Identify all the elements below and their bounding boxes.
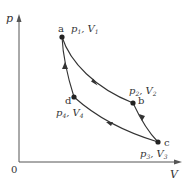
point-a-state: p1, V1 xyxy=(71,23,99,35)
arrow-a-b-icon xyxy=(91,78,99,85)
point-d xyxy=(71,94,76,99)
y-axis-label: p xyxy=(6,12,13,25)
x-axis-label: V xyxy=(170,168,179,181)
x-axis-arrow-icon xyxy=(174,160,182,165)
point-d-label: d xyxy=(65,95,72,106)
y-axis-arrow-icon xyxy=(17,14,22,22)
point-d-state: p4, V4 xyxy=(56,107,84,119)
origin-label: 0 xyxy=(11,164,17,175)
process-c-d xyxy=(74,97,158,142)
arrow-d-a-icon xyxy=(62,62,68,69)
point-b xyxy=(130,100,135,105)
point-c-label: c xyxy=(164,137,170,148)
point-a-label: a xyxy=(58,23,64,34)
process-b-c xyxy=(133,103,158,142)
point-c xyxy=(155,139,160,144)
arrow-c-d-icon xyxy=(106,122,113,126)
point-a xyxy=(59,34,64,39)
point-c-state: p3, V3 xyxy=(140,148,168,160)
point-b-label: b xyxy=(138,95,144,106)
pv-diagram: p V 0 a p1, V1 p2, V2 b c p3, V3 d xyxy=(0,0,188,184)
